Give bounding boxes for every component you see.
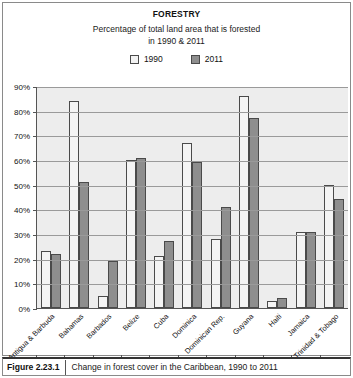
bar-2011 [249,118,259,308]
y-axis-tick-label: 40% [14,206,30,215]
bar-1990 [182,143,192,308]
y-axis-tick-label: 50% [14,181,30,190]
chart-subtitle: Percentage of total land area that is fo… [3,24,350,47]
bar-1990 [98,296,108,308]
y-axis-tick [33,309,37,310]
chart-title: FORESTRY [3,9,350,20]
y-axis-tick-label: 30% [14,231,30,240]
legend-swatch-1990 [130,55,139,64]
gridline [37,161,348,162]
x-axis-tick-label: Belize [121,312,142,333]
y-axis-tick [33,186,37,187]
gridline [37,136,348,137]
bar-group [150,87,178,308]
x-axis-label-cell: Guyana [235,311,263,355]
bar-group [263,87,291,308]
gridline [37,260,348,261]
bar-1990 [154,256,164,308]
bar-1990 [211,239,221,308]
y-axis-tick [33,112,37,113]
y-axis-tick-label: 70% [14,132,30,141]
plot-wrapper: 90%80%70%60%50%40%30%20%10%0% Antigua & … [3,87,350,355]
legend-item-2011: 2011 [191,54,223,64]
x-axis-tick-label: Cuba [151,312,170,331]
legend-item-1990: 1990 [130,54,163,64]
y-axis-tick [33,161,37,162]
y-axis-tick [33,210,37,211]
bar-1990 [267,301,277,308]
y-axis-tick-label: 10% [14,280,30,289]
x-axis-tick-label: Haiti [267,312,284,329]
y-axis-tick-label: 80% [14,107,30,116]
figure-caption: Figure 2.23.1 Change in forest cover in … [2,357,351,376]
x-axis-label-cell: Barbados [93,311,121,355]
bar-2011 [334,199,344,308]
gridline [37,284,348,285]
legend-swatch-2011 [191,55,200,64]
chart-legend: 1990 2011 [3,54,350,64]
x-axis-tick-label: Guyana [230,312,255,337]
bar-series-container [37,87,348,308]
x-axis-label-cell: Dominican Rep. [206,311,234,355]
legend-label-2011: 2011 [205,54,223,64]
x-axis-labels: Antigua & BarbudaBahamasBarbadosBelizeCu… [36,311,348,355]
bar-group [94,87,122,308]
y-axis: 90%80%70%60%50%40%30%20%10%0% [3,87,34,309]
x-axis-tick-label: Antigua & Barbuda [6,312,56,362]
bar-group [178,87,206,308]
bar-group [65,87,93,308]
bar-2011 [79,182,89,308]
bar-1990 [239,96,249,308]
y-axis-tick [33,136,37,137]
plot-area [36,87,348,309]
gridline [37,235,348,236]
gridline [37,87,348,88]
y-axis-tick-label: 20% [14,255,30,264]
bar-2011 [221,207,231,308]
bar-2011 [136,158,146,308]
gridline [37,186,348,187]
y-axis-tick [33,284,37,285]
bar-1990 [296,232,306,308]
bar-2011 [306,232,316,308]
bar-group [207,87,235,308]
bar-1990 [126,160,136,308]
bar-group [122,87,150,308]
chart-subtitle-line-2: in 1990 & 2011 [3,36,350,48]
y-axis-tick-label: 0% [18,305,30,314]
bar-2011 [277,298,287,308]
chart-frame: FORESTRY Percentage of total land area t… [2,2,351,356]
y-axis-tick [33,260,37,261]
y-axis-tick-label: 60% [14,157,30,166]
bar-1990 [69,101,79,308]
figure-container: FORESTRY Percentage of total land area t… [0,0,353,378]
bar-2011 [51,254,61,308]
legend-label-1990: 1990 [144,54,163,64]
bar-group [37,87,65,308]
bar-1990 [324,185,334,308]
chart-subtitle-line-1: Percentage of total land area that is fo… [3,24,350,36]
figure-caption-text: Change in forest cover in the Caribbean,… [66,362,278,372]
y-axis-tick [33,87,37,88]
bar-2011 [164,241,174,308]
y-axis-tick [33,235,37,236]
y-axis-tick-label: 90% [14,83,30,92]
bar-group [291,87,319,308]
x-axis-label-cell: Belize [121,311,149,355]
bar-group [235,87,263,308]
figure-caption-tag: Figure 2.23.1 [3,360,66,375]
x-axis-label-cell: Trinidad & Tobago [320,311,348,355]
gridline [37,112,348,113]
bar-group [320,87,348,308]
gridline [37,210,348,211]
